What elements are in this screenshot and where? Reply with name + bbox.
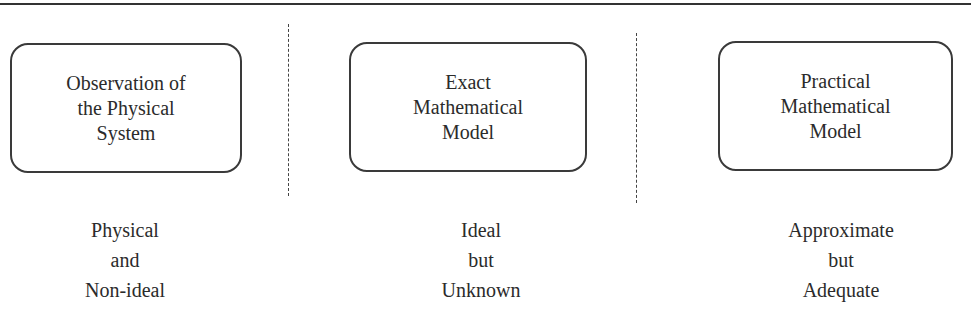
top-rule <box>0 3 971 5</box>
divider-dashed-1 <box>288 24 289 196</box>
box-exact-model: Exact Mathematical Model <box>349 42 587 172</box>
box-exact-model-label: Exact Mathematical Model <box>413 70 523 145</box>
box-observation-label: Observation of the Physical System <box>66 71 185 146</box>
box-observation: Observation of the Physical System <box>10 43 242 173</box>
divider-dashed-2 <box>636 33 637 203</box>
box-practical-model: Practical Mathematical Model <box>718 41 953 171</box>
caption-exact-model: Ideal but Unknown <box>361 215 601 305</box>
caption-observation: Physical and Non-ideal <box>5 215 245 305</box>
box-practical-model-label: Practical Mathematical Model <box>781 69 891 144</box>
caption-practical-model: Approximate but Adequate <box>721 215 961 305</box>
